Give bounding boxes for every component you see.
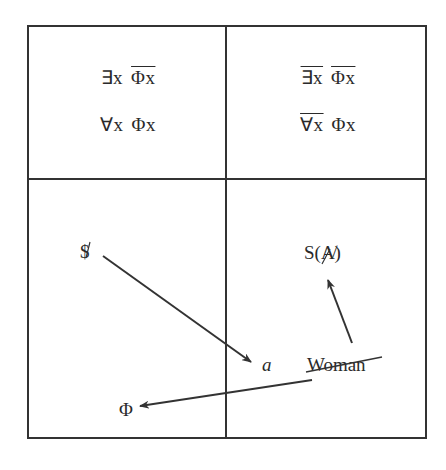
arrows-layer [0, 0, 446, 470]
woman-bar-stroke [306, 357, 382, 372]
arrow-barred-s-to-a [103, 256, 251, 362]
barred-s-stroke [86, 242, 90, 258]
barred-a-stroke [322, 249, 330, 264]
arrow-woman-to-phi [140, 380, 312, 406]
arrow-woman-to-s-barred-a [328, 280, 352, 343]
